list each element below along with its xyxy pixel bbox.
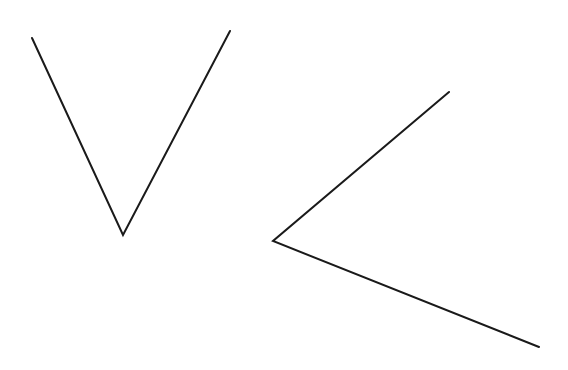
angle-sideways-lines bbox=[273, 92, 539, 347]
angles-diagram bbox=[0, 0, 568, 370]
angle-v-lines bbox=[32, 31, 230, 235]
